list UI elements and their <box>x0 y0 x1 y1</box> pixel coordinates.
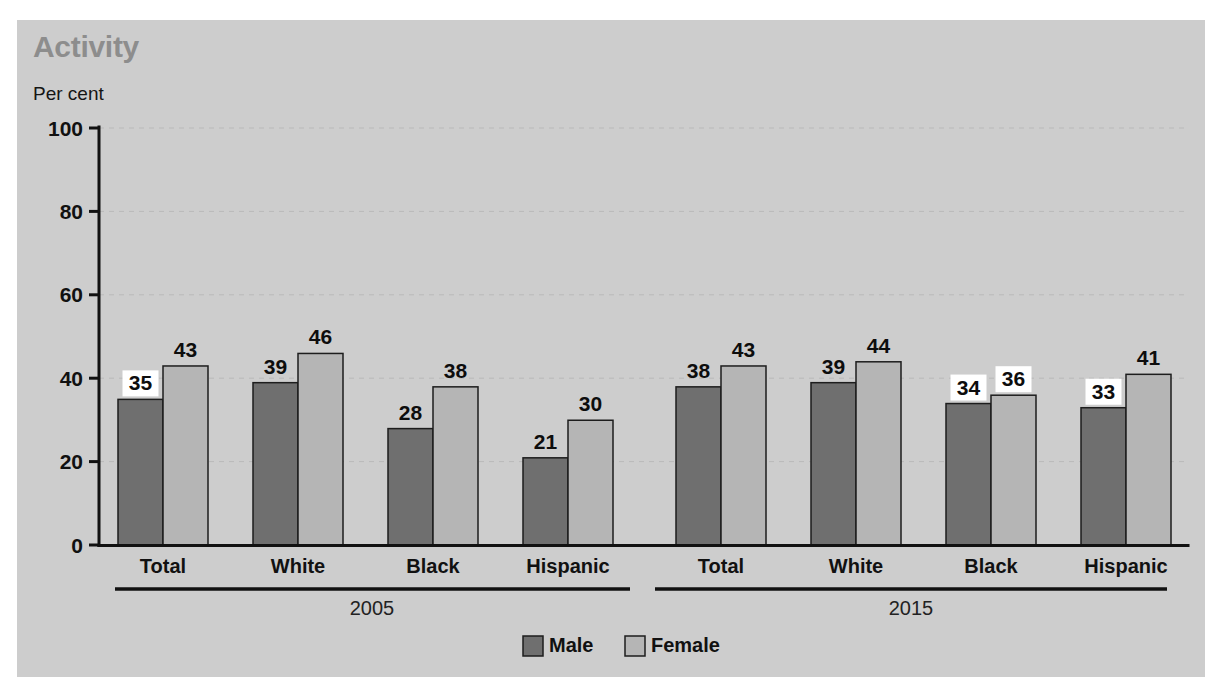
bar-female-total-2015 <box>721 366 766 546</box>
category-label-total-2015: Total <box>698 555 744 577</box>
y-tick-label-80: 80 <box>60 200 83 223</box>
legend-label-female: Female <box>651 634 720 656</box>
y-tick-label-100: 100 <box>48 117 83 140</box>
category-label-black-2015: Black <box>964 555 1018 577</box>
value-label-female-total-2015: 43 <box>732 338 755 361</box>
value-label-female-black-2005: 38 <box>444 359 468 382</box>
bar-male-total-2005 <box>118 399 163 545</box>
category-label-black-2005: Black <box>406 555 460 577</box>
bar-female-white-2015 <box>856 362 901 546</box>
period-label-2015: 2015 <box>889 597 934 619</box>
category-label-hispanic-2015: Hispanic <box>1084 555 1167 577</box>
bar-male-white-2005 <box>253 383 298 546</box>
category-label-white-2005: White <box>271 555 325 577</box>
value-label-female-white-2005: 46 <box>309 325 332 348</box>
y-tick-label-40: 40 <box>60 367 83 390</box>
bar-female-total-2005 <box>163 366 208 546</box>
bar-female-hispanic-2005 <box>568 420 613 545</box>
bar-male-hispanic-2015 <box>1081 408 1126 546</box>
y-axis-unit-label: Per cent <box>33 83 104 104</box>
value-label-male-black-2005: 28 <box>399 401 423 424</box>
value-label-male-black-2015: 34 <box>957 376 981 399</box>
chart-title: Activity <box>33 30 140 63</box>
bar-male-white-2015 <box>811 383 856 546</box>
category-label-total-2005: Total <box>140 555 186 577</box>
bar-female-white-2005 <box>298 353 343 545</box>
y-tick-label-20: 20 <box>60 450 83 473</box>
bar-male-black-2015 <box>946 404 991 546</box>
value-label-male-white-2015: 39 <box>822 355 845 378</box>
value-label-male-white-2005: 39 <box>264 355 287 378</box>
value-label-female-black-2015: 36 <box>1002 367 1025 390</box>
value-label-male-hispanic-2015: 33 <box>1092 380 1115 403</box>
value-label-female-hispanic-2005: 30 <box>579 392 602 415</box>
legend-label-male: Male <box>549 634 593 656</box>
value-label-female-hispanic-2015: 41 <box>1137 346 1161 369</box>
activity-bar-chart: Activity Per cent 100 80 60 40 20 0 3543… <box>0 0 1219 677</box>
value-label-female-total-2005: 43 <box>174 338 197 361</box>
bar-male-black-2005 <box>388 429 433 546</box>
bar-female-black-2005 <box>433 387 478 546</box>
legend-swatch-female <box>625 636 645 656</box>
y-tick-label-0: 0 <box>71 534 83 557</box>
period-label-2005: 2005 <box>350 597 395 619</box>
bar-female-black-2015 <box>991 395 1036 545</box>
bar-male-total-2015 <box>676 387 721 546</box>
value-label-male-hispanic-2005: 21 <box>534 430 558 453</box>
value-label-male-total-2005: 35 <box>129 371 153 394</box>
value-label-male-total-2015: 38 <box>687 359 711 382</box>
y-tick-label-60: 60 <box>60 283 83 306</box>
value-label-female-white-2015: 44 <box>867 334 891 357</box>
legend-swatch-male <box>523 636 543 656</box>
bar-female-hispanic-2015 <box>1126 374 1171 545</box>
category-label-white-2015: White <box>829 555 883 577</box>
category-label-hispanic-2005: Hispanic <box>526 555 609 577</box>
bar-male-hispanic-2005 <box>523 458 568 546</box>
